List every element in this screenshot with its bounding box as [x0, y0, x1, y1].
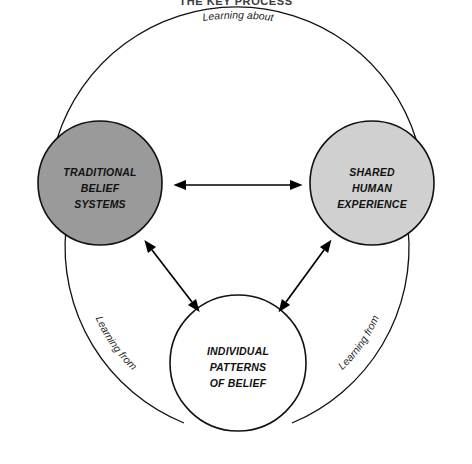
- arrow-individual-to-traditional: [152, 250, 192, 302]
- arc-label-learning-about: Learning about: [202, 8, 276, 23]
- arc-traditional-to-individual: [65, 228, 184, 423]
- node-traditional-belief-systems[interactable]: TRADITIONAL BELIEF SYSTEMS: [38, 121, 162, 245]
- arc-label-learning-about-text: Learning about: [202, 8, 276, 23]
- node-label-individual-line-2: PATTERNS: [210, 361, 267, 373]
- arc-label-learning-from-right: Learning from: [335, 313, 381, 372]
- node-individual-patterns-of-belief[interactable]: INDIVIDUAL PATTERNS OF BELIEF: [170, 295, 306, 431]
- arc-label-learning-from-right-text: Learning from: [335, 313, 381, 372]
- node-label-individual-line-1: INDIVIDUAL: [207, 345, 269, 357]
- node-label-shared-line-3: EXPERIENCE: [337, 198, 407, 210]
- arc-label-learning-from-left: Learning from: [94, 314, 140, 372]
- diagram-canvas: THE KEY PROCESS Learning about Learning …: [0, 0, 472, 464]
- arrow-individual-to-shared: [286, 250, 324, 302]
- node-label-shared-line-2: HUMAN: [352, 182, 392, 194]
- arc-shared-to-individual: [292, 228, 409, 423]
- node-label-traditional-line-2: BELIEF: [81, 182, 120, 194]
- node-label-individual-line-3: OF BELIEF: [210, 377, 267, 389]
- arc-traditional-to-shared: [57, 7, 416, 139]
- arc-label-learning-from-left-text: Learning from: [94, 314, 140, 372]
- node-shared-human-experience[interactable]: SHARED HUMAN EXPERIENCE: [310, 121, 434, 245]
- node-label-shared-line-1: SHARED: [349, 166, 395, 178]
- page-title: THE KEY PROCESS: [179, 0, 292, 7]
- node-label-traditional-line-1: TRADITIONAL: [63, 166, 136, 178]
- node-label-traditional-line-3: SYSTEMS: [74, 198, 126, 210]
- key-process-diagram: THE KEY PROCESS Learning about Learning …: [0, 0, 472, 464]
